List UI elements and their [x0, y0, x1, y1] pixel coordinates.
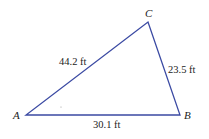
- triangle-diagram: A B C 44.2 ft 23.5 ft 30.1 ft: [0, 0, 209, 139]
- side-label-cb: 23.5 ft: [168, 64, 195, 75]
- vertex-label-c: C: [145, 7, 153, 19]
- stray-dot: [60, 106, 61, 107]
- side-label-ac: 44.2 ft: [59, 56, 86, 67]
- triangle-abc: [26, 22, 180, 115]
- vertex-label-b: B: [184, 109, 191, 121]
- vertex-label-a: A: [12, 109, 20, 121]
- side-label-ab: 30.1 ft: [93, 119, 120, 130]
